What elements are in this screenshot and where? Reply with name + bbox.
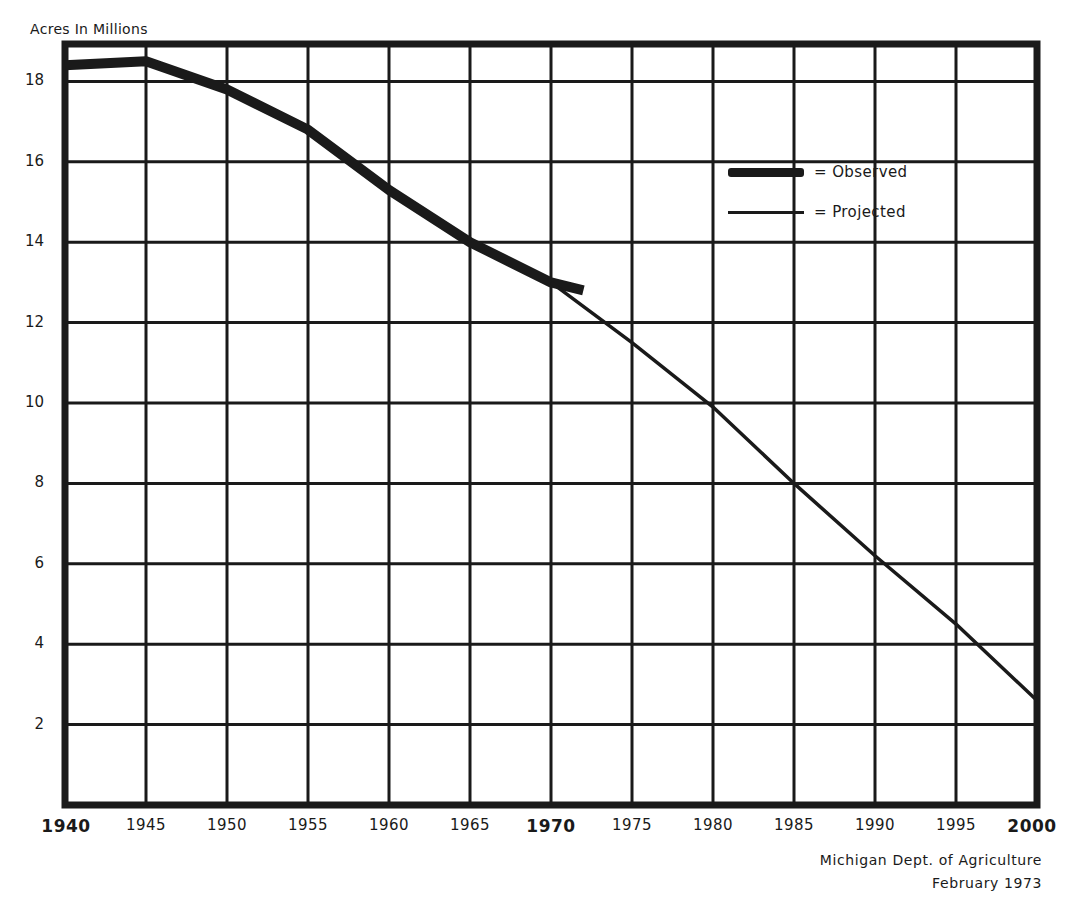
x-tick-label: 1940 [36, 816, 96, 836]
x-tick-label: 1945 [116, 816, 176, 834]
x-tick-label: 1995 [926, 816, 986, 834]
legend-item-projected: = Projected [728, 192, 908, 232]
y-tick-label: 8 [14, 473, 44, 491]
x-tick-label: 1960 [359, 816, 419, 834]
y-tick-label: 10 [14, 393, 44, 411]
y-tick-label: 4 [14, 634, 44, 652]
chart-canvas [0, 0, 1070, 911]
y-tick-label: 6 [14, 554, 44, 572]
x-tick-label: 1980 [683, 816, 743, 834]
source-organization: Michigan Dept. of Agriculture [820, 849, 1042, 872]
series-observed-line [65, 61, 583, 290]
x-tick-label: 1990 [845, 816, 905, 834]
y-tick-label: 18 [14, 71, 44, 89]
y-tick-label: 16 [14, 152, 44, 170]
y-tick-label: 14 [14, 232, 44, 250]
legend-label-observed: = Observed [814, 163, 908, 181]
x-tick-label: 2000 [1002, 816, 1062, 836]
projected-line-swatch-icon [728, 211, 804, 214]
x-tick-label: 1955 [278, 816, 338, 834]
x-tick-label: 1965 [440, 816, 500, 834]
x-tick-label: 1975 [602, 816, 662, 834]
legend: = Observed = Projected [728, 152, 908, 232]
x-tick-label: 1950 [197, 816, 257, 834]
y-axis-title: Acres In Millions [30, 21, 148, 37]
legend-item-observed: = Observed [728, 152, 908, 192]
y-tick-label: 2 [14, 715, 44, 733]
legend-label-projected: = Projected [814, 203, 906, 221]
x-tick-label: 1970 [521, 816, 581, 836]
source-date: February 1973 [820, 872, 1042, 895]
x-tick-label: 1985 [764, 816, 824, 834]
y-tick-label: 12 [14, 313, 44, 331]
source-note: Michigan Dept. of Agriculture February 1… [820, 849, 1042, 895]
observed-line-swatch-icon [728, 168, 804, 177]
